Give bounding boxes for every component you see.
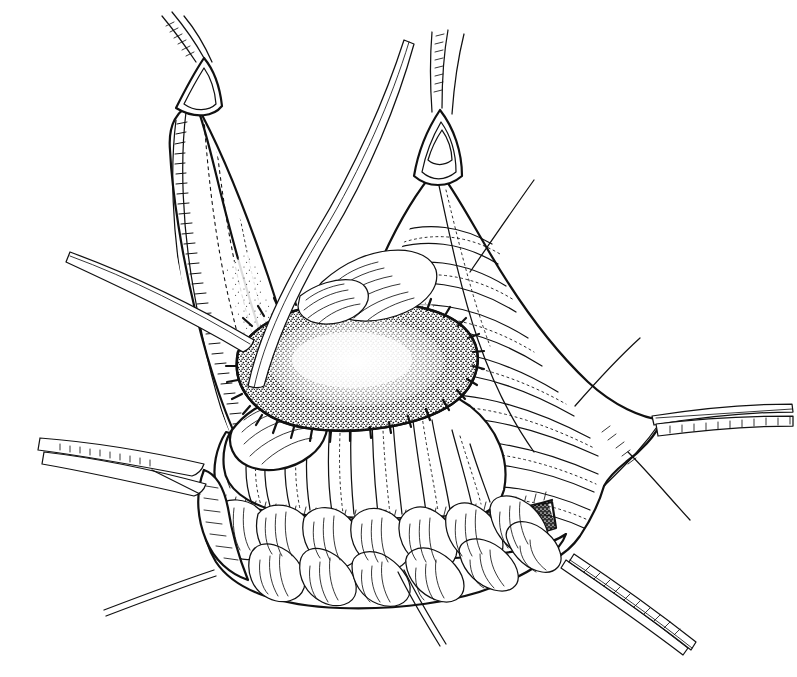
surgical-illustration-figure <box>0 0 797 677</box>
illustration-canvas <box>0 0 797 677</box>
